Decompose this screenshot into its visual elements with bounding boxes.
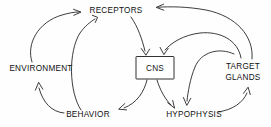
node-label-target-glands-line2: GLANDS — [225, 73, 260, 82]
node-label-behavior: BEHAVIOR — [66, 110, 110, 119]
edge-environment-to-receptors — [30, 9, 81, 62]
node-label-cns: CNS — [146, 64, 164, 73]
diagram-svg: RECEPTORS ENVIRONMENT CNS TARGET GLANDS … — [0, 0, 271, 127]
node-label-environment: ENVIRONMENT — [9, 64, 72, 73]
diagram-canvas: RECEPTORS ENVIRONMENT CNS TARGET GLANDS … — [0, 0, 271, 127]
node-label-hypophysis: HYPOPHYSIS — [166, 110, 222, 119]
edge-receptors-to-cns — [131, 17, 150, 55]
node-label-target-glands-line1: TARGET — [226, 62, 260, 71]
edge-behavior-to-receptors — [71, 15, 97, 110]
edge-hypophysis-to-target-glands — [218, 87, 250, 112]
edge-cns-to-behavior — [119, 80, 147, 110]
edge-target-glands-to-receptors — [156, 4, 252, 59]
edge-behavior-to-environment — [35, 82, 64, 113]
node-label-receptors: RECEPTORS — [89, 6, 142, 15]
edge-cns-to-hypophysis — [157, 80, 175, 108]
edge-target-glands-to-cns — [160, 33, 241, 58]
